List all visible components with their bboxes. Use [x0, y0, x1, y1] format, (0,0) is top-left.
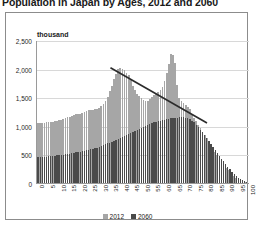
- bar-2060: [147, 125, 148, 183]
- bar-2060: [48, 156, 49, 183]
- bar-2060: [84, 151, 85, 183]
- bar-2060: [227, 167, 228, 183]
- plot-area: [36, 41, 249, 184]
- bar-2060: [242, 180, 243, 183]
- x-axis-tick-label: 55: [155, 185, 161, 192]
- bar-2060: [139, 129, 140, 183]
- bar-2060: [44, 157, 45, 183]
- bar-2060: [46, 157, 47, 183]
- x-axis-tick-label: 45: [134, 185, 140, 192]
- bar-2060: [238, 178, 239, 183]
- bar-2060: [193, 122, 194, 183]
- bars-layer: [37, 41, 249, 183]
- chart-legend: 20122060: [6, 213, 249, 220]
- bar-2060: [96, 148, 97, 183]
- x-axis-tick-label: 90: [229, 185, 235, 192]
- bar-2060: [37, 157, 38, 183]
- bar-2060: [189, 119, 190, 183]
- bar-2060: [94, 148, 95, 183]
- legend-item-label: 2012: [110, 213, 124, 220]
- bar-2060: [77, 152, 78, 183]
- bar-2060: [128, 134, 129, 183]
- x-axis-tick-label: 40: [124, 185, 130, 192]
- bar-2060: [69, 154, 70, 184]
- bar-2060: [162, 120, 163, 183]
- bar-2060: [206, 138, 207, 183]
- bar-2060: [191, 121, 192, 183]
- bar-2060: [120, 138, 121, 183]
- bar-2060: [223, 161, 224, 183]
- bar-2060: [234, 174, 235, 183]
- x-axis-tick-label: 85: [219, 185, 225, 192]
- bar-2060: [92, 149, 93, 183]
- page-title: Population in Japan by Ages, 2012 and 20…: [2, 0, 260, 9]
- bar-2060: [88, 150, 89, 183]
- legend-swatch-icon: [131, 214, 136, 219]
- x-axis-tick-label: 80: [208, 185, 214, 192]
- bar-2060: [149, 124, 150, 183]
- bar-2060: [63, 155, 64, 183]
- bar-2060: [166, 119, 167, 183]
- y-axis: 2,5002,0001,5001,0005000: [6, 41, 34, 184]
- x-axis-tick-label: 30: [103, 185, 109, 192]
- y-axis-unit-label: thousand: [37, 31, 69, 38]
- bar-2060: [198, 127, 199, 183]
- bar-2060: [179, 117, 180, 183]
- legend-item-label: 2060: [138, 213, 152, 220]
- bar-2060: [56, 155, 57, 183]
- y-axis-tick-label: 2,500: [16, 38, 32, 45]
- bar-2060: [65, 154, 66, 183]
- x-axis-tick-label: 65: [177, 185, 183, 192]
- bar-2060: [217, 153, 218, 183]
- bar-2060: [202, 132, 203, 183]
- bar-2060: [172, 118, 173, 183]
- bar-2060: [75, 152, 76, 183]
- bar-2060: [42, 157, 43, 183]
- bar-2060: [105, 144, 106, 183]
- bar-2060: [204, 135, 205, 183]
- legend-swatch-icon: [103, 214, 108, 219]
- bar-2060: [73, 153, 74, 183]
- bar-2060: [155, 122, 156, 183]
- bar-2060: [248, 183, 249, 184]
- x-axis-tick-label: 50: [145, 185, 151, 192]
- y-axis-tick-label: 1,000: [16, 123, 32, 130]
- y-axis-tick-label: 500: [21, 152, 32, 159]
- bar-2060: [67, 154, 68, 183]
- bar-2060: [82, 151, 83, 183]
- bar-2060: [215, 150, 216, 183]
- bar-2060: [50, 156, 51, 183]
- x-axis-tick-label: 60: [166, 185, 172, 192]
- bar-2060: [229, 169, 230, 183]
- x-axis-tick-label: 10: [61, 185, 67, 192]
- bar-2060: [246, 182, 247, 183]
- bar-2060: [160, 121, 161, 183]
- x-axis-tick-label: 20: [82, 185, 88, 192]
- y-axis-tick-label: 1,500: [16, 95, 32, 102]
- bar-2060: [90, 149, 91, 183]
- bar-2060: [231, 172, 232, 183]
- bar-2060: [137, 130, 138, 183]
- bar-2060: [181, 117, 182, 183]
- bar-2060: [52, 156, 53, 183]
- bar-2060: [101, 146, 102, 183]
- bar-2060: [80, 152, 81, 183]
- bar-2060: [99, 147, 100, 183]
- bar-2060: [210, 144, 211, 183]
- bar-2060: [111, 142, 112, 183]
- bar-2060: [71, 153, 72, 183]
- bar-2060: [122, 137, 123, 183]
- bar-2060: [109, 143, 110, 183]
- legend-item: 2060: [131, 213, 152, 220]
- bar-2060: [187, 118, 188, 183]
- bar-2060: [177, 118, 178, 183]
- bar-2060: [168, 119, 169, 183]
- chart-frame: thousand 2,5002,0001,5001,0005000 051015…: [5, 12, 248, 220]
- bar-2060: [115, 140, 116, 183]
- bar-2060: [143, 127, 144, 183]
- bar-2060: [200, 130, 201, 183]
- bar-2060: [244, 181, 245, 183]
- y-axis-tick-label: 0: [28, 181, 32, 188]
- bar-2060: [225, 164, 226, 183]
- bar-2060: [61, 155, 62, 183]
